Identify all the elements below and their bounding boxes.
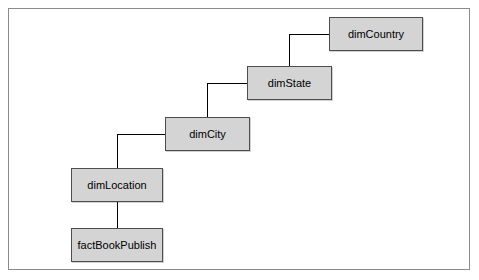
node-dimcity-label: dimCity [189, 129, 226, 140]
connector-dimlocation-dimcity-horizontal [117, 134, 165, 135]
node-dimlocation-label: dimLocation [87, 180, 146, 191]
node-dimlocation[interactable]: dimLocation [71, 168, 163, 202]
connector-dimstate-dimcountry-horizontal [289, 34, 329, 35]
connector-dimcity-dimstate-vertical [207, 83, 208, 117]
node-dimcountry-label: dimCountry [348, 29, 404, 40]
connector-dimstate-dimcountry-vertical [289, 34, 290, 66]
connector-dimlocation-dimcity-vertical [117, 134, 118, 168]
connector-dimcity-dimstate-horizontal [207, 83, 247, 84]
node-factbookpublish-label: factBookPublish [78, 240, 157, 251]
node-dimcity[interactable]: dimCity [165, 117, 250, 151]
node-factbookpublish[interactable]: factBookPublish [71, 228, 163, 262]
node-dimstate-label: dimState [268, 78, 311, 89]
node-dimcountry[interactable]: dimCountry [329, 17, 423, 51]
connector-factbookpublish-dimlocation-vertical [117, 201, 118, 228]
node-dimstate[interactable]: dimState [247, 66, 332, 100]
diagram-frame: dimCountry dimState dimCity dimLocation … [8, 8, 470, 270]
